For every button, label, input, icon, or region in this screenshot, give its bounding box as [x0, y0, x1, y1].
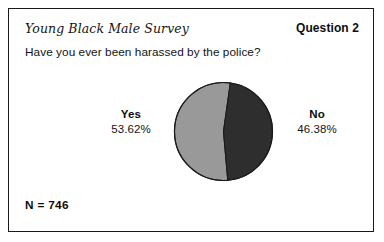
- survey-title: Young Black Male Survey: [25, 21, 189, 36]
- question-prompt: Have you ever been harassed by the polic…: [25, 45, 261, 59]
- pie-chart-svg: [173, 81, 274, 182]
- survey-question-card: Young Black Male Survey Question 2 Have …: [8, 8, 374, 232]
- pie-callout-no: No 46.38%: [281, 107, 353, 136]
- pie-chart-area: Yes 53.62% No 46.38%: [9, 71, 373, 191]
- pie-callout-yes: Yes 53.62%: [95, 107, 167, 136]
- pie-slice-no: [224, 83, 273, 180]
- sample-size-label: N = 746: [25, 198, 69, 212]
- pie-callout-no-value: 46.38%: [281, 122, 353, 137]
- question-number-label: Question 2: [296, 21, 359, 35]
- pie-callout-yes-label: Yes: [95, 107, 167, 122]
- card-header: Young Black Male Survey Question 2: [9, 17, 373, 39]
- pie-callout-yes-value: 53.62%: [95, 122, 167, 137]
- pie-chart: [173, 81, 274, 182]
- pie-callout-no-label: No: [281, 107, 353, 122]
- pie-slice-yes: [174, 83, 230, 181]
